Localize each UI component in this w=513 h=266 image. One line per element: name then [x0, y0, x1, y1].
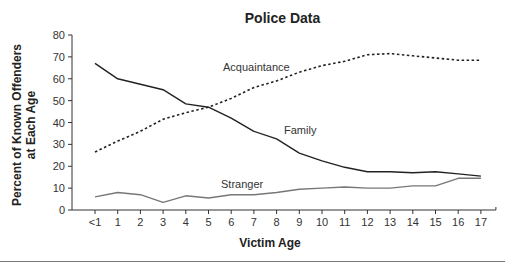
series-label-acquaintance: Acquaintance [223, 61, 290, 73]
x-tick-label: 4 [183, 216, 189, 228]
series-line-stranger [95, 178, 481, 202]
series-label-family: Family [284, 124, 317, 136]
x-tick-label: 8 [274, 216, 280, 228]
x-tick-label: 6 [228, 216, 234, 228]
y-tick-label: 80 [53, 29, 65, 41]
axes: 01020304050607080<1123456789101112131415… [53, 29, 496, 228]
x-tick-label: 10 [316, 216, 328, 228]
y-tick-label: 20 [53, 160, 65, 172]
x-tick-label: 7 [251, 216, 257, 228]
x-tick-label: 5 [205, 216, 211, 228]
x-tick-label: 12 [361, 216, 373, 228]
y-tick-label: 30 [53, 138, 65, 150]
y-tick-label: 0 [59, 204, 65, 216]
line-chart: 01020304050607080<1123456789101112131415… [0, 0, 513, 266]
y-tick-label: 10 [53, 182, 65, 194]
x-tick-label: 16 [452, 216, 464, 228]
x-tick-label: 15 [429, 216, 441, 228]
y-tick-label: 50 [53, 95, 65, 107]
x-tick-label: 13 [384, 216, 396, 228]
y-tick-label: 70 [53, 51, 65, 63]
series-label-stranger: Stranger [221, 178, 264, 190]
x-tick-label: 17 [475, 216, 487, 228]
x-tick-label: 3 [160, 216, 166, 228]
x-tick-label: <1 [89, 216, 102, 228]
y-tick-label: 40 [53, 117, 65, 129]
y-tick-label: 60 [53, 73, 65, 85]
x-tick-label: 1 [115, 216, 121, 228]
x-tick-label: 14 [407, 216, 419, 228]
x-tick-label: 9 [296, 216, 302, 228]
series-line-family [95, 63, 481, 176]
x-tick-label: 2 [137, 216, 143, 228]
series-labels: AcquaintanceFamilyStranger [221, 61, 317, 190]
bottom-divider [0, 261, 505, 262]
x-tick-label: 11 [339, 216, 350, 228]
